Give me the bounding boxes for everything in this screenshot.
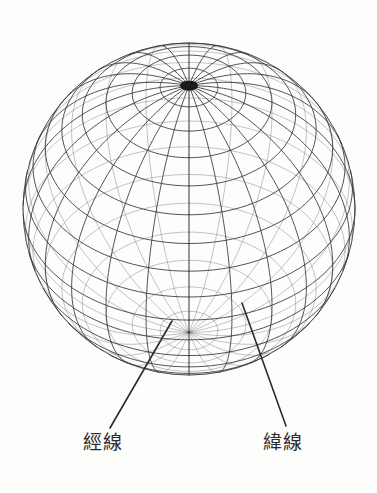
north-pole-convergence	[180, 81, 198, 91]
globe-diagram-page: 經線 緯線	[0, 0, 377, 493]
label-meridian: 經線	[83, 433, 123, 452]
leader-line-meridian	[110, 321, 172, 428]
globe-wireframe-svg	[0, 0, 377, 493]
graticule-group	[23, 43, 355, 375]
label-parallel: 緯線	[263, 433, 303, 452]
